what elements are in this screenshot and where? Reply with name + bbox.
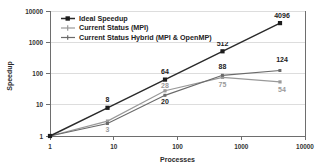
- data-point-hybrid-124: [278, 69, 281, 72]
- data-point-ideal-512: [220, 49, 224, 53]
- legend-marker-icon-ideal: [66, 16, 70, 20]
- y-axis-title: Speedup: [6, 61, 14, 91]
- y-tick-label-100: 100: [32, 70, 43, 77]
- x-tick-label-100: 100: [172, 143, 183, 150]
- data-label-ideal-8: 8: [106, 96, 110, 103]
- data-label-ideal-64: 64: [161, 68, 169, 75]
- y-tick-label-1: 1: [39, 133, 43, 140]
- x-tick-label-10000: 10000: [296, 143, 314, 150]
- data-label-mpi-3: 3: [106, 126, 110, 133]
- x-tick-label-10: 10: [110, 143, 118, 150]
- data-point-ideal-1: [48, 134, 52, 138]
- data-label-hybrid-20: 20: [161, 98, 169, 105]
- y-tick-marks: [46, 11, 50, 136]
- chart-legend: Ideal Speedup Current Status (MPI) Curre…: [56, 13, 236, 42]
- y-tick-label-1000: 1000: [29, 39, 44, 46]
- x-tick-label-1000: 1000: [234, 143, 249, 150]
- speedup-scaling-chart: 10000 1000 100 10 1 1 10 100 1000 10000 …: [0, 0, 328, 167]
- legend-label-ideal: Ideal Speedup: [79, 14, 128, 23]
- x-axis-title: Processes: [160, 156, 195, 163]
- data-point-mpi-54: [278, 80, 281, 83]
- data-label-hybrid-124: 124: [276, 56, 288, 63]
- x-tick-marks: [50, 136, 305, 140]
- data-point-ideal-4096: [278, 21, 282, 25]
- legend-label-mpi: Current Status (MPI): [79, 23, 149, 32]
- legend-label-hybrid: Current Status Hybrid (MPI & OpenMP): [79, 33, 212, 42]
- data-label-mpi-28: 28: [161, 82, 169, 89]
- y-tick-label-10000: 10000: [25, 8, 43, 15]
- data-point-hybrid-20: [163, 94, 166, 97]
- data-label-ideal-4096: 4096: [274, 12, 290, 19]
- legend-item-current-status-hybrid[interactable]: Current Status Hybrid (MPI & OpenMP): [61, 33, 212, 42]
- data-label-mpi-75: 75: [219, 81, 227, 88]
- y-tick-label-10: 10: [36, 101, 44, 108]
- data-point-ideal-8: [105, 106, 109, 110]
- chart-canvas: 10000 1000 100 10 1 1 10 100 1000 10000 …: [0, 0, 328, 167]
- data-label-mpi-54: 54: [278, 86, 286, 93]
- data-label-hybrid-88: 88: [219, 63, 227, 70]
- data-point-mpi-28: [163, 89, 166, 92]
- data-point-hybrid-88: [221, 74, 224, 77]
- x-tick-label-1: 1: [48, 143, 52, 150]
